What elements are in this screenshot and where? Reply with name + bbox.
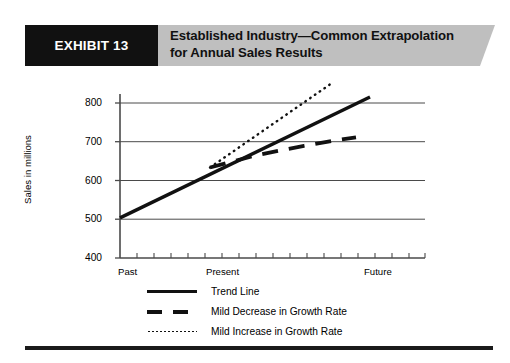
- legend-item-mild-increase: Mild Increase in Growth Rate: [147, 322, 342, 340]
- y-tick-label-500: 500: [62, 213, 102, 224]
- chart-legend: Trend Line Mild Decrease in Growth Rate …: [0, 282, 510, 338]
- bottom-divider-rule: [25, 346, 493, 350]
- legend-label-mild-decrease: Mild Decrease in Growth Rate: [211, 306, 347, 317]
- exhibit-title-line-1: Established Industry—Common Extrapolatio…: [170, 28, 490, 45]
- legend-swatch-dotted-icon: [147, 324, 197, 338]
- legend-item-trend-line: Trend Line: [147, 282, 259, 300]
- x-axis-ticks: [137, 253, 425, 258]
- y-tick-label-800: 800: [62, 97, 102, 108]
- exhibit-title: Established Industry—Common Extrapolatio…: [170, 28, 490, 61]
- x-tick-label-future: Future: [364, 266, 392, 277]
- legend-swatch-solid-icon: [147, 284, 197, 298]
- x-tick-label-past: Past: [118, 266, 137, 277]
- y-tick-label-700: 700: [62, 136, 102, 147]
- y-tick-label-600: 600: [62, 175, 102, 186]
- legend-label-mild-increase: Mild Increase in Growth Rate: [211, 326, 342, 337]
- x-tick-label-present: Present: [206, 266, 239, 277]
- exhibit-tag: EXHIBIT 13: [25, 25, 158, 66]
- y-tick-label-400: 400: [62, 252, 102, 263]
- chart-gridlines: [120, 103, 425, 219]
- legend-item-mild-decrease: Mild Decrease in Growth Rate: [147, 302, 347, 320]
- y-axis-title: Sales in millions: [22, 110, 33, 230]
- legend-swatch-dashed-icon: [147, 304, 197, 318]
- chart-figure: Sales in millions 800 700 600 500 400 Pa…: [0, 66, 510, 281]
- exhibit-header: EXHIBIT 13 Established Industry—Common E…: [25, 25, 495, 66]
- exhibit-title-line-2: for Annual Sales Results: [170, 45, 490, 62]
- exhibit-tag-label: EXHIBIT 13: [54, 38, 128, 53]
- legend-label-trend-line: Trend Line: [211, 286, 259, 297]
